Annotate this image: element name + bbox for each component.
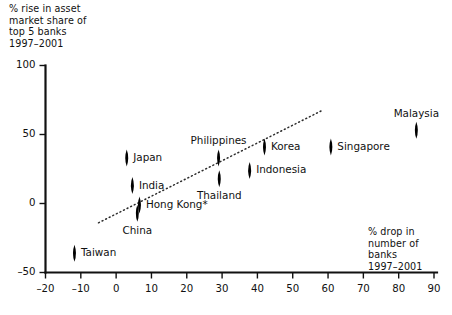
data-point-label: Taiwan [81,246,116,258]
y-tick-label: 50 [0,128,36,139]
data-point-label: China [107,224,167,236]
plot-area [0,0,452,315]
data-marker [131,177,134,194]
data-marker [415,122,418,139]
data-point-label: Malaysia [386,107,446,119]
x-tick-label: 70 [343,283,383,294]
x-tick-label: –10 [61,283,101,294]
x-tick-label: 90 [414,283,452,294]
x-tick-label: 30 [202,283,242,294]
x-tick-label: 20 [167,283,207,294]
data-point-label: Philippines [189,134,249,146]
x-tick-label: –20 [26,283,66,294]
data-marker [218,170,221,187]
y-tick-label: 100 [0,59,36,70]
x-tick-label: 0 [96,283,136,294]
data-point-label: Korea [271,140,300,152]
x-tick-label: 40 [237,283,277,294]
data-marker [248,162,251,179]
data-point-label: Thailand [189,189,249,201]
data-point-label: India [139,179,165,191]
data-point-label: Singapore [337,140,389,152]
y-tick-label: –50 [0,266,36,277]
data-point-label: Japan [133,151,162,163]
x-tick-label: 60 [308,283,348,294]
x-tick-label: 50 [273,283,313,294]
scatter-chart: % rise in asset market share of top 5 ba… [0,0,452,315]
y-tick-label: 0 [0,197,36,208]
data-marker [73,245,76,262]
data-marker [217,149,220,166]
data-point-label: Indonesia [256,163,306,175]
data-marker [125,149,128,166]
x-tick-label: 10 [131,283,171,294]
x-tick-label: 80 [379,283,419,294]
data-marker [329,138,332,155]
data-marker [263,138,266,155]
